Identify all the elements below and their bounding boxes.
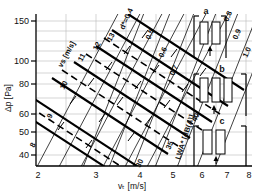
x-tick-label: 2 [35,170,40,180]
y-tick-label: 100 [14,56,29,66]
blade [216,130,225,154]
x-tick-label: 8 [246,170,251,180]
y-tick-label: 150 [14,16,29,26]
blade [203,130,212,154]
y-axis-title: Δp [Pa] [3,84,13,112]
blade [212,22,220,44]
x-tick-label: 5 [170,170,175,180]
icon-label-c: c [219,116,224,126]
blade [224,78,232,102]
blade [200,78,208,102]
x-axis-title: vₜ [m/s] [118,181,146,191]
x-tick-label: 6 [199,170,204,180]
y-tick-label: 40 [19,150,29,160]
nomogram-figure: 150 100 80 60 50 40 Δp [Pa] 2 3 4 5 6 7 … [0,0,260,192]
y-tick-label: 80 [19,79,29,89]
chart-svg: 150 100 80 60 50 40 Δp [Pa] 2 3 4 5 6 7 … [0,0,260,192]
y-tick-label: 60 [19,109,29,119]
x-tick-label: 7 [224,170,229,180]
x-tick-label: 3 [93,170,98,180]
x-tick-label: 4 [137,170,142,180]
blade [212,78,220,102]
blade [200,22,208,44]
icon-label-b: b [219,64,225,74]
y-tick-label: 50 [19,127,29,137]
